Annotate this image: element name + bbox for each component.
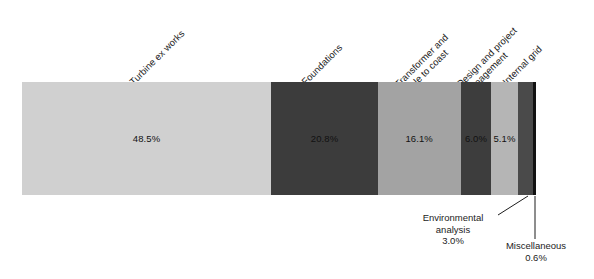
- category-label-line1: Turbine ex works: [127, 28, 186, 87]
- callout-line1: Miscellaneous: [506, 240, 566, 251]
- bar-segment-foundations[interactable]: 20.8%: [271, 82, 378, 195]
- category-label-turbine-ex-works: Turbine ex works: [127, 28, 186, 87]
- segment-value-transformer-and-cable-to-coast: 16.1%: [405, 134, 432, 144]
- category-label-line1: Foundations: [299, 42, 344, 87]
- bar-segment-internal-grid[interactable]: 5.1%: [491, 82, 517, 195]
- callout-line1: Environmental: [423, 212, 484, 223]
- bar-segment-miscellaneous[interactable]: 0.6%: [533, 82, 536, 195]
- segment-value-internal-grid: 5.1%: [493, 134, 515, 144]
- bar-segment-turbine-ex-works[interactable]: 48.5%: [22, 82, 271, 195]
- callout-value: 0.6%: [481, 252, 591, 264]
- segment-value-foundations: 20.8%: [311, 134, 338, 144]
- chart-canvas: Turbine ex works Foundations Transformer…: [0, 0, 594, 279]
- segment-value-design-and-project-management: 6.0%: [465, 134, 487, 144]
- bar-segment-design-and-project-management[interactable]: 6.0%: [461, 82, 492, 195]
- bar-segment-environmental-analysis[interactable]: 3.0%: [518, 82, 533, 195]
- category-label-foundations: Foundations: [299, 42, 344, 87]
- stacked-bar: 48.5% 20.8% 16.1% 6.0% 5.1% 3.0% 0.6%: [22, 82, 536, 195]
- callout-line2: analysis: [398, 224, 508, 236]
- miscellaneous-callout: Miscellaneous 0.6%: [481, 240, 591, 263]
- bar-segment-transformer-and-cable-to-coast[interactable]: 16.1%: [378, 82, 461, 195]
- segment-value-turbine-ex-works: 48.5%: [133, 134, 160, 144]
